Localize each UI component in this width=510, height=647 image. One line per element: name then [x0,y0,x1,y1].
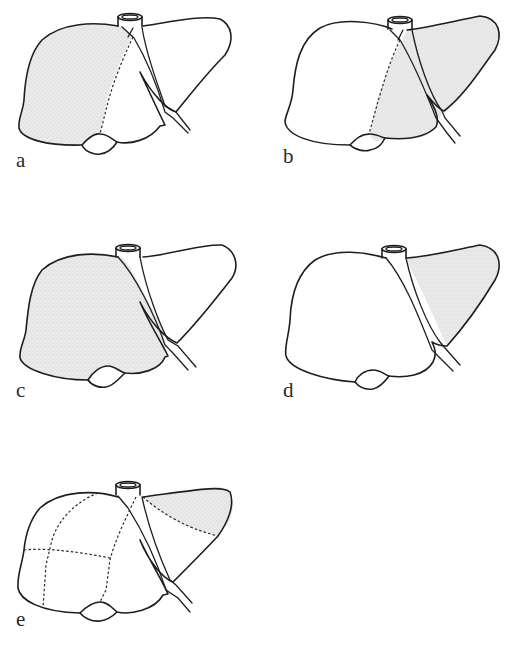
gallbladder [355,376,389,389]
gallbladder [82,142,117,154]
panel-label-e: e [16,609,25,630]
panel-d: d [255,230,510,420]
panel-c: c [0,230,255,420]
liver-diagram-c [0,230,255,420]
segment-line-portal [43,493,98,608]
panel-label-b: b [283,146,294,167]
shaded-right-hemiliver [19,24,132,145]
falciform-ligament [122,27,188,133]
panel-b: b [255,0,510,210]
gallbladder [80,612,117,621]
liver-diagram-e [0,440,255,647]
panel-label-a: a [16,150,25,171]
panel-e: e [0,440,255,647]
panel-label-d: d [283,380,294,401]
liver-diagram-a [0,0,255,210]
segment-line-horizontal [24,549,110,558]
shaded-left-hemiliver [370,16,499,141]
panel-label-c: c [16,380,25,401]
liver-diagram-b [255,0,510,210]
gallbladder [88,373,125,387]
panel-a: a [0,0,255,210]
